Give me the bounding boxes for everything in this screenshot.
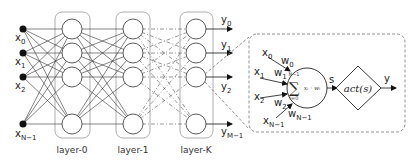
neuron-node-l0-3 bbox=[62, 114, 82, 134]
neuron-node-l1-3 bbox=[123, 114, 143, 134]
neuron-weight-w1: w1 bbox=[274, 67, 287, 81]
neuron-input-x1: x1 bbox=[254, 66, 264, 80]
sum-term: xᵢ · wᵢ bbox=[304, 84, 321, 91]
layer-0-label: layer-0 bbox=[57, 145, 88, 155]
neuron-node-l0-0 bbox=[62, 19, 82, 39]
neuron-input-xn: xN−1 bbox=[263, 115, 284, 129]
layer-k-label: layer-K bbox=[180, 145, 212, 155]
neuron-output-label: y bbox=[384, 73, 390, 84]
output-label-0: y0 bbox=[221, 14, 231, 28]
neuron-node-l1-2 bbox=[123, 67, 143, 87]
input-label-0: x0 bbox=[15, 32, 25, 46]
layer-1-label: layer-1 bbox=[118, 145, 149, 155]
output-label-1: y1 bbox=[221, 39, 231, 53]
neuron-detail-box bbox=[249, 34, 405, 132]
neuron-node-l2-1 bbox=[186, 43, 206, 63]
neuron-weight-w2: w2 bbox=[274, 97, 287, 111]
input-label-1: x1 bbox=[15, 56, 25, 70]
neuron-node-l2-3 bbox=[186, 114, 206, 134]
neuron-weight-wn: wN−1 bbox=[288, 108, 312, 122]
sum-output-label: s bbox=[329, 74, 334, 85]
output-label-3: yM−1 bbox=[221, 126, 243, 140]
output-label-2: y2 bbox=[221, 81, 231, 95]
sum-upper-limit: N−1 bbox=[288, 71, 299, 77]
neuron-node-l2-2 bbox=[186, 67, 206, 87]
neuron-node-l2-0 bbox=[186, 19, 206, 39]
neuron-input-x2: x2 bbox=[254, 91, 264, 105]
neural-network-diagram: layer-0 layer-1 layer-K x0x1x2xN−1y0y1y2… bbox=[0, 0, 414, 164]
neuron-detail: N−1 ∑ i=0 xᵢ · wᵢ x0 w0 x1 w1 x2 w2 xN−1… bbox=[249, 34, 405, 132]
neuron-node-l0-2 bbox=[62, 67, 82, 87]
neuron-input-x0: x0 bbox=[262, 47, 272, 61]
neuron-node-l1-0 bbox=[123, 19, 143, 39]
input-label-2: x2 bbox=[15, 80, 25, 94]
sum-lower-limit: i=0 bbox=[290, 95, 299, 101]
neuron-node-l0-1 bbox=[62, 43, 82, 63]
input-label-3: xN−1 bbox=[15, 128, 36, 142]
input-dot-3 bbox=[20, 121, 27, 128]
neuron-node-l1-1 bbox=[123, 43, 143, 63]
activation-label: act(s) bbox=[344, 83, 373, 94]
